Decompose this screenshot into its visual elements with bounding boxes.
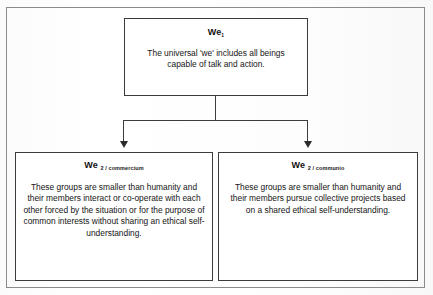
node-title-we1: We1 <box>125 28 307 37</box>
connector-horizontal-bar <box>123 120 308 121</box>
node-title-we2-commercium-main: We <box>84 160 98 170</box>
node-title-we2-communio-main: We <box>292 160 306 170</box>
node-title-we2-commercium: We 2 / commercium <box>16 161 212 170</box>
connector-drop-left <box>123 120 124 142</box>
node-box-we1: We1 The universal 'we' includes all bein… <box>124 18 308 96</box>
node-box-we2-communio: We 2 / communio These groups are smaller… <box>218 152 418 281</box>
node-title-we1-main: We <box>208 27 222 37</box>
connector-stem-vertical <box>215 96 216 121</box>
arrow-down-icon-right <box>304 141 312 148</box>
node-body-we1: The universal 'we' includes all beings c… <box>125 48 307 71</box>
node-title-we2-communio: We 2 / communio <box>219 161 417 170</box>
node-body-we2-commercium: These groups are smaller than humanity a… <box>16 182 212 239</box>
connector-drop-right <box>307 120 308 142</box>
arrow-down-icon-left <box>120 141 128 148</box>
node-title-we1-subscript: 1 <box>221 32 224 38</box>
node-box-we2-commercium: We 2 / commercium These groups are small… <box>15 152 213 281</box>
diagram-root: We1 The universal 'we' includes all bein… <box>0 0 433 295</box>
node-title-we2-communio-subscript: 2 / communio <box>308 165 345 171</box>
node-title-we2-commercium-subscript: 2 / commercium <box>100 165 143 171</box>
node-body-we2-communio: These groups are smaller than humanity a… <box>219 182 417 216</box>
